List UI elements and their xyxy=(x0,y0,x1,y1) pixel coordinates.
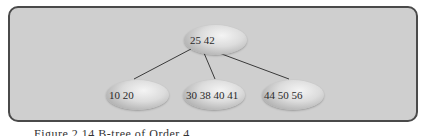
edge-root-to-child-0 xyxy=(134,49,191,79)
edge-root-to-child-2 xyxy=(219,53,289,79)
node-keys: 44 50 56 xyxy=(264,89,303,101)
edge-root-to-child-1 xyxy=(204,53,215,79)
node-keys: 10 20 xyxy=(109,89,134,101)
figure-caption: Figure 2.14 B-tree of Order 4 xyxy=(34,127,190,136)
tree-node-child-1: 30 38 40 41 xyxy=(183,80,245,110)
node-keys: 30 38 40 41 xyxy=(186,89,238,101)
tree-edges xyxy=(0,0,429,136)
tree-node-root: 25 42 xyxy=(184,25,247,55)
node-keys: 25 42 xyxy=(190,34,215,46)
tree-node-child-0: 10 20 xyxy=(106,80,169,110)
tree-node-child-2: 44 50 56 xyxy=(262,80,324,110)
